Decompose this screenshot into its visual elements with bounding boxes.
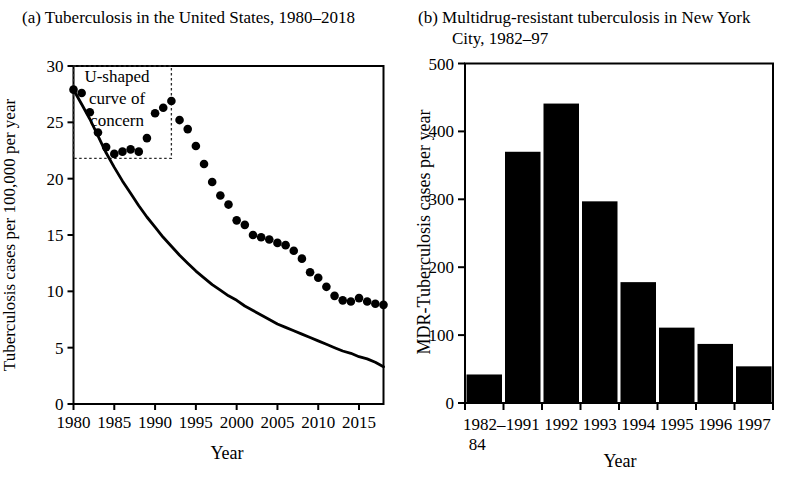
data-point <box>192 142 201 151</box>
x-category-label-b: 1997 <box>737 415 772 434</box>
data-point <box>273 239 282 248</box>
data-point <box>249 231 258 240</box>
concern-box-label: U-shaped <box>84 67 150 86</box>
data-point <box>355 294 364 303</box>
x-category-label-b: 1995 <box>660 415 694 434</box>
trend-curve <box>74 90 384 367</box>
data-point <box>102 143 111 152</box>
data-point <box>241 221 250 230</box>
x-category-label-b: 1992 <box>544 415 578 434</box>
data-point <box>314 274 323 283</box>
data-point <box>363 297 372 306</box>
y-tick-label-a: 0 <box>55 395 64 414</box>
bar-1994 <box>621 282 657 403</box>
concern-box-label: curve of <box>89 89 146 108</box>
data-point <box>330 292 339 301</box>
data-point <box>118 147 127 156</box>
y-tick-label-a: 10 <box>47 282 64 301</box>
bar-1995 <box>659 328 695 403</box>
data-point <box>183 125 192 134</box>
data-point <box>298 254 307 263</box>
x-tick-label-a: 1985 <box>97 413 131 432</box>
data-point <box>159 103 168 112</box>
y-tick-label-b: 0 <box>446 394 455 413</box>
y-tick-label-b: 500 <box>429 55 455 74</box>
x-axis-label-a: Year <box>210 443 243 463</box>
y-tick-label-a: 15 <box>47 226 64 245</box>
x-tick-label-a: 1990 <box>138 413 172 432</box>
data-point <box>208 178 217 187</box>
x-category-label-b: 1993 <box>583 415 617 434</box>
data-point <box>224 200 233 209</box>
data-point <box>200 160 209 169</box>
data-point <box>94 128 103 137</box>
data-point <box>216 191 225 200</box>
x-tick-label-a: 1995 <box>179 413 213 432</box>
data-point <box>306 268 315 277</box>
y-tick-label-a: 30 <box>47 57 64 76</box>
data-point <box>126 145 135 154</box>
data-point <box>151 109 160 118</box>
bar-1997 <box>736 366 772 403</box>
y-axis-label-b: MDR-Tuberculosis cases per year <box>414 110 434 355</box>
data-point <box>110 150 119 159</box>
x-axis-label-b: Year <box>603 451 636 471</box>
data-point <box>143 134 152 143</box>
data-point <box>69 85 78 94</box>
chart-canvas: 0510152025301980198519901995200020052010… <box>0 0 795 493</box>
data-point <box>175 116 184 125</box>
x-category-label-b: 1991 <box>506 415 540 434</box>
x-tick-label-a: 2010 <box>301 413 335 432</box>
data-point <box>232 216 241 225</box>
data-point <box>347 297 356 306</box>
x-tick-label-a: 2000 <box>220 413 254 432</box>
x-tick-label-a: 2015 <box>342 413 376 432</box>
x-category-label-b: 1982– <box>463 415 506 434</box>
data-point <box>257 233 266 242</box>
x-category-label-b: 1996 <box>698 415 732 434</box>
x-tick-label-a: 2005 <box>260 413 294 432</box>
data-point <box>86 108 95 117</box>
data-point <box>289 246 298 255</box>
y-tick-label-a: 25 <box>47 113 64 132</box>
figure-root: (a) Tuberculosis in the United States, 1… <box>0 0 795 493</box>
bar-1982-84 <box>467 374 503 403</box>
data-point <box>134 147 143 156</box>
bar-1993 <box>582 201 618 403</box>
y-tick-label-a: 20 <box>47 170 64 189</box>
data-point <box>77 89 86 98</box>
x-category-label-b: 84 <box>469 435 487 454</box>
data-point <box>265 235 274 244</box>
data-point <box>167 97 176 106</box>
data-point <box>338 296 347 305</box>
bar-1992 <box>544 104 580 403</box>
y-tick-label-a: 5 <box>55 339 64 358</box>
x-category-label-b: 1994 <box>621 415 656 434</box>
x-tick-label-a: 1980 <box>57 413 91 432</box>
data-point <box>322 283 331 292</box>
data-point <box>371 299 380 308</box>
bar-1991 <box>505 152 541 403</box>
data-point <box>379 301 388 310</box>
bar-1996 <box>698 344 734 403</box>
concern-box-label: concern <box>90 111 144 130</box>
data-point <box>281 241 290 250</box>
y-axis-label-a: Tuberculosis cases per 100,000 per year <box>0 99 19 372</box>
